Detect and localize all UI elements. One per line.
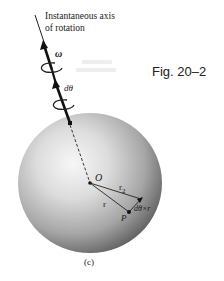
r2-subscript: 2 <box>122 187 126 195</box>
axis-caption-line1: Instantaneous axis <box>45 12 115 22</box>
point-p <box>127 210 131 214</box>
bleed-through-smudge <box>76 68 116 72</box>
omega-label: ω <box>55 49 62 59</box>
point-p-label: P <box>121 214 127 223</box>
axis-surface-point <box>68 121 72 125</box>
axis-caption-line2: of rotation <box>45 24 85 34</box>
dtheta-label: dθ <box>64 84 73 93</box>
displacement-label: dθ×r <box>134 205 150 213</box>
rotation-axis-thin <box>35 15 45 45</box>
r-label: r <box>103 200 106 209</box>
omega-vector <box>44 45 52 70</box>
figure-number: Fig. 20–2 <box>152 64 206 79</box>
diagram-canvas <box>0 0 224 281</box>
origin-label: O <box>95 173 102 183</box>
bleed-through-smudge <box>82 60 112 64</box>
subfigure-label: (c) <box>84 258 94 267</box>
r2-label: r2 <box>119 183 126 195</box>
figure-20-2: Instantaneous axis of rotation ω dθ O r2… <box>0 0 224 281</box>
